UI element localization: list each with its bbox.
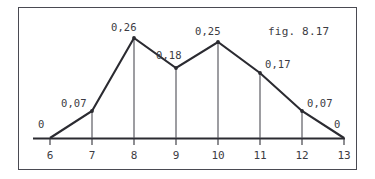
value-label-13: 0 [334, 119, 340, 130]
value-label-10: 0,25 [195, 26, 221, 37]
value-label-8: 0,26 [111, 22, 137, 33]
x-tick-label-12: 12 [295, 150, 308, 161]
figure-caption: fig. 8.17 [268, 26, 329, 37]
value-label-11: 0,17 [265, 59, 291, 70]
vertex-marker-11 [258, 71, 262, 75]
polygon-series-line [50, 38, 344, 138]
vertex-marker-9 [174, 66, 178, 70]
x-tick-label-9: 9 [173, 150, 180, 161]
x-tick-label-8: 8 [131, 150, 138, 161]
x-tick-label-11: 11 [253, 150, 266, 161]
vertex-marker-10 [216, 40, 220, 44]
value-label-6: 0 [38, 119, 44, 130]
vertex-marker-7 [90, 109, 94, 113]
x-tick-label-6: 6 [47, 150, 54, 161]
value-label-9: 0,18 [156, 50, 182, 61]
figure-container: 0 0,07 0,26 0,18 0,25 0,17 0,07 0 6 7 8 … [0, 0, 375, 179]
x-tick-label-10: 10 [211, 150, 224, 161]
vertex-marker-12 [300, 109, 304, 113]
vertex-marker-8 [132, 36, 136, 40]
value-label-12: 0,07 [307, 98, 333, 109]
value-label-7: 0,07 [61, 98, 87, 109]
x-tick-label-13: 13 [337, 150, 350, 161]
x-tick-label-7: 7 [89, 150, 96, 161]
